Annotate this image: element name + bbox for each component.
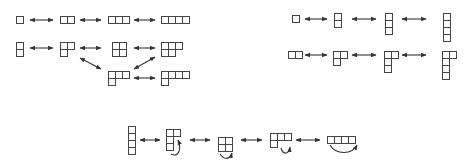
young-diagram-b1 — [17, 43, 24, 57]
young-diagram-a1 — [17, 17, 24, 24]
curved-arrow-icon — [220, 153, 232, 158]
young-diagram-a3 — [109, 17, 130, 24]
curved-arrow-icon — [281, 147, 290, 153]
young-diagram-c1 — [109, 72, 130, 86]
young-diagram-d4 — [444, 14, 451, 42]
curved-arrow-icon — [171, 140, 180, 155]
young-diagram-f4 — [271, 134, 292, 148]
young-diagram-d3 — [386, 14, 393, 35]
young-diagram-e3 — [385, 52, 399, 73]
curved-arrow-icon — [330, 145, 357, 153]
young-diagram-b3 — [113, 43, 127, 57]
young-diagram-b2 — [61, 43, 75, 57]
young-diagram-f5 — [328, 137, 356, 144]
double-arrow-icon — [134, 57, 155, 69]
young-diagram-c2 — [162, 72, 190, 86]
young-diagram-e1 — [289, 52, 303, 59]
young-diagram-a2 — [61, 17, 75, 24]
young-diagram-d2 — [335, 14, 342, 28]
young-diagram-d1 — [293, 16, 300, 23]
young-diagram-f1 — [129, 127, 136, 155]
young-diagram-b4 — [162, 43, 183, 57]
young-diagram-e2 — [334, 52, 348, 66]
young-diagram-figure — [0, 0, 464, 167]
young-diagram-f3 — [219, 138, 233, 152]
young-diagram-e4 — [443, 52, 457, 80]
young-diagram-a4 — [162, 17, 190, 24]
double-arrow-icon — [80, 58, 101, 69]
